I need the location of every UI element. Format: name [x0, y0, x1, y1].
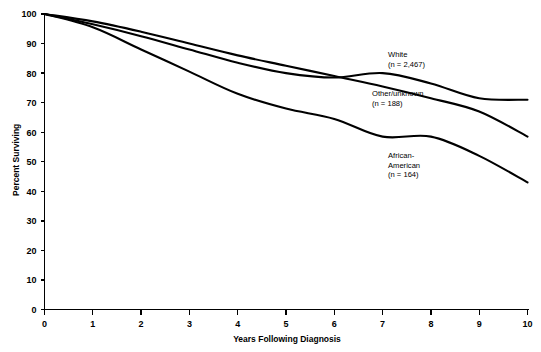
y-tick-label-90: 90 — [26, 39, 36, 49]
x-tick-label-5: 5 — [283, 319, 288, 329]
series-annotations: White(n = 2,467)Other/unknown(n = 188)Af… — [372, 50, 425, 179]
series-line-white — [45, 14, 528, 137]
x-tick-label-9: 9 — [477, 319, 482, 329]
x-tick-label-0: 0 — [42, 319, 47, 329]
annotation-african-american: African-American(n = 164) — [388, 151, 420, 179]
annotation-african-american-line-3: (n = 164) — [388, 170, 419, 179]
x-tick-label-4: 4 — [235, 319, 240, 329]
y-axis-ticks: 0102030405060708090100 — [21, 9, 44, 315]
y-axis-title: Percent Surviving — [11, 124, 21, 196]
annotation-other: Other/unknown(n = 188) — [372, 89, 424, 108]
y-tick-label-80: 80 — [26, 69, 36, 79]
y-tick-label-100: 100 — [21, 9, 36, 19]
survival-chart: 0102030405060708090100 012345678910 Whit… — [0, 0, 541, 352]
x-axis-title: Years Following Diagnosis — [233, 334, 341, 344]
annotation-white: White(n = 2,467) — [388, 50, 425, 69]
series-line-african-american — [45, 14, 528, 182]
x-tick-label-8: 8 — [428, 319, 433, 329]
x-tick-label-6: 6 — [332, 319, 337, 329]
y-tick-label-20: 20 — [26, 246, 36, 256]
x-tick-label-10: 10 — [522, 319, 532, 329]
x-tick-label-3: 3 — [187, 319, 192, 329]
y-tick-label-50: 50 — [26, 157, 36, 167]
series-lines — [45, 14, 528, 182]
x-tick-label-7: 7 — [380, 319, 385, 329]
y-tick-label-70: 70 — [26, 98, 36, 108]
annotation-other-line-2: (n = 188) — [372, 99, 403, 108]
y-tick-label-40: 40 — [26, 187, 36, 197]
y-tick-label-60: 60 — [26, 128, 36, 138]
y-tick-label-10: 10 — [26, 275, 36, 285]
y-tick-label-30: 30 — [26, 216, 36, 226]
x-tick-label-1: 1 — [90, 319, 95, 329]
y-tick-label-0: 0 — [31, 305, 36, 315]
annotation-white-line-2: (n = 2,467) — [388, 60, 425, 69]
annotation-white-line-1: White — [388, 50, 407, 59]
chart-canvas: 0102030405060708090100 012345678910 Whit… — [0, 0, 541, 352]
x-axis-ticks: 012345678910 — [42, 310, 533, 329]
annotation-african-american-line-2: American — [388, 161, 420, 170]
annotation-african-american-line-1: African- — [388, 151, 415, 160]
annotation-other-line-1: Other/unknown — [372, 89, 424, 98]
x-tick-label-2: 2 — [139, 319, 144, 329]
